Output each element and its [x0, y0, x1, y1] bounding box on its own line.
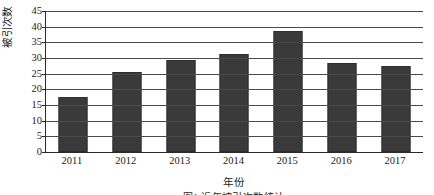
bar-slot [154, 11, 208, 152]
x-axis-tick-label: 2013 [153, 156, 207, 167]
y-axis-tick-label: 10 [18, 115, 42, 126]
y-axis-tick-mark [42, 74, 46, 75]
x-axis-tick-label: 2016 [314, 156, 368, 167]
y-axis-tick-mark [42, 121, 46, 122]
y-axis-tick-mark [42, 42, 46, 43]
gridline [46, 42, 423, 43]
x-axis-tick-label: 2012 [99, 156, 153, 167]
bar-slot [100, 11, 154, 152]
x-axis-tick-label: 2015 [260, 156, 314, 167]
bar [382, 66, 411, 152]
bar-slot [208, 11, 262, 152]
y-axis-tick-mark [42, 11, 46, 12]
y-axis-tick-label: 40 [18, 21, 42, 32]
bar-slot [46, 11, 100, 152]
y-axis-tick-label: 15 [18, 100, 42, 111]
y-axis-tick-label: 25 [18, 68, 42, 79]
x-axis-tick-labels: 2011201220132014201520162017 [45, 156, 422, 170]
gridline [46, 121, 423, 122]
y-axis-tick-label: 5 [18, 131, 42, 142]
x-axis-tick-label: 2014 [207, 156, 261, 167]
x-axis-tick-label: 2011 [45, 156, 99, 167]
citation-count-bar-chart: 被引次数 051015202530354045 2011201220132014… [0, 0, 434, 195]
y-axis-tick-labels: 051015202530354045 [18, 0, 42, 195]
y-axis-tick-label: 30 [18, 53, 42, 64]
bar [274, 31, 303, 152]
gridline [46, 136, 423, 137]
gridline [46, 11, 423, 12]
gridline [46, 58, 423, 59]
bar [328, 63, 357, 152]
gridline [46, 89, 423, 90]
y-axis-tick-mark [42, 136, 46, 137]
y-axis-tick-label: 20 [18, 84, 42, 95]
bar-slot [261, 11, 315, 152]
y-axis-tick-label: 45 [18, 6, 42, 17]
y-axis-tick-mark [42, 58, 46, 59]
y-axis-tick-mark [42, 27, 46, 28]
y-axis-tick-mark [42, 105, 46, 106]
x-axis-title: 年份 [45, 174, 422, 189]
bar-slot [369, 11, 423, 152]
bar [112, 72, 141, 152]
y-axis-tick-mark [42, 89, 46, 90]
y-axis-tick-label: 0 [18, 147, 42, 158]
y-axis-tick-mark [42, 152, 46, 153]
bar-slot [315, 11, 369, 152]
plot-area [45, 11, 423, 153]
gridline [46, 105, 423, 106]
x-axis-tick-label: 2017 [368, 156, 422, 167]
y-axis-tick-label: 35 [18, 37, 42, 48]
y-axis-title: 被引次数 [0, 0, 16, 64]
bar-series [46, 11, 423, 152]
gridline [46, 74, 423, 75]
figure-caption: 图1 近年被引次数统计 [45, 189, 422, 195]
gridline [46, 27, 423, 28]
